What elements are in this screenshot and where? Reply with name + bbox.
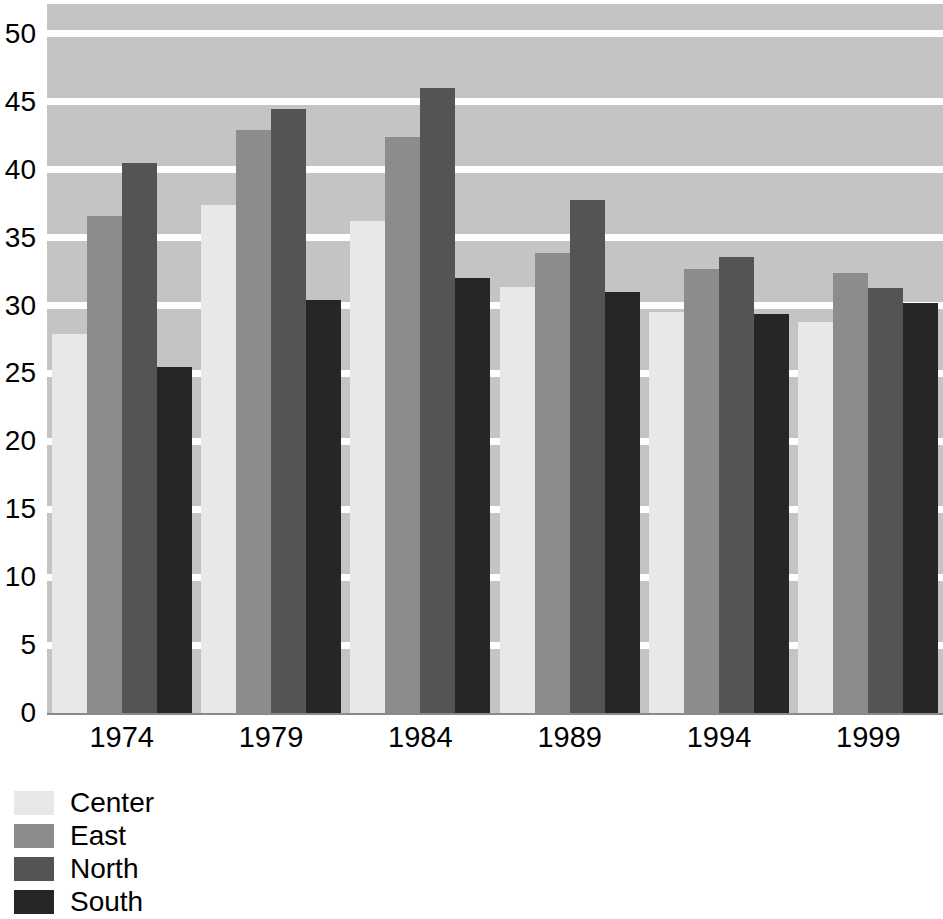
y-axis: 05101520253035404550 bbox=[0, 0, 44, 713]
legend-swatch-icon bbox=[14, 824, 54, 848]
x-tick-label: 1989 bbox=[537, 721, 602, 754]
legend-swatch-icon bbox=[14, 890, 54, 914]
bar bbox=[350, 221, 385, 713]
bar bbox=[684, 269, 719, 713]
bar bbox=[306, 300, 341, 713]
bar bbox=[87, 216, 122, 713]
y-tick-label: 15 bbox=[5, 495, 36, 523]
bar bbox=[833, 273, 868, 713]
legend-swatch-icon bbox=[14, 857, 54, 881]
x-axis: 197419791984198919941999 bbox=[47, 713, 943, 775]
legend-label: East bbox=[70, 822, 126, 850]
bar bbox=[719, 257, 754, 713]
y-tick-label: 40 bbox=[5, 156, 36, 184]
bars-layer bbox=[47, 0, 943, 713]
y-tick-label: 50 bbox=[5, 20, 36, 48]
x-tick-label: 1979 bbox=[239, 721, 304, 754]
y-tick-label: 25 bbox=[5, 359, 36, 387]
bar-group bbox=[196, 0, 345, 713]
x-tick-label: 1984 bbox=[388, 721, 453, 754]
y-tick-label: 35 bbox=[5, 224, 36, 252]
bar-group bbox=[495, 0, 644, 713]
bar bbox=[385, 137, 420, 713]
y-tick-label: 0 bbox=[20, 699, 36, 727]
legend-item[interactable]: East bbox=[14, 819, 414, 852]
legend-label: North bbox=[70, 855, 138, 883]
bar bbox=[201, 205, 236, 713]
y-tick-label: 30 bbox=[5, 292, 36, 320]
bar-group bbox=[794, 0, 943, 713]
bar bbox=[570, 200, 605, 713]
bar-chart-figure: 05101520253035404550 1974197919841989199… bbox=[0, 0, 943, 919]
legend-item[interactable]: Center bbox=[14, 786, 414, 819]
x-tick-label: 1994 bbox=[687, 721, 752, 754]
legend-label: Center bbox=[70, 789, 154, 817]
chart-legend: CenterEastNorthSouth bbox=[14, 786, 414, 918]
y-tick-label: 45 bbox=[5, 88, 36, 116]
bar bbox=[420, 88, 455, 713]
bar bbox=[271, 109, 306, 713]
bar bbox=[455, 278, 490, 713]
bar bbox=[754, 314, 789, 713]
legend-item[interactable]: South bbox=[14, 885, 414, 918]
y-tick-label: 20 bbox=[5, 427, 36, 455]
bar bbox=[605, 292, 640, 713]
bar-group bbox=[644, 0, 793, 713]
legend-item[interactable]: North bbox=[14, 852, 414, 885]
legend-swatch-icon bbox=[14, 791, 54, 815]
bar bbox=[500, 287, 535, 713]
bar bbox=[236, 130, 271, 713]
bar bbox=[535, 253, 570, 713]
plot-area bbox=[47, 0, 943, 713]
bar bbox=[868, 288, 903, 713]
bar-group bbox=[346, 0, 495, 713]
bar bbox=[157, 367, 192, 713]
y-tick-label: 5 bbox=[20, 631, 36, 659]
y-tick-label: 10 bbox=[5, 563, 36, 591]
bar bbox=[798, 322, 833, 713]
legend-label: South bbox=[70, 888, 143, 916]
x-tick-label: 1974 bbox=[89, 721, 154, 754]
bar bbox=[649, 312, 684, 713]
bar-group bbox=[47, 0, 196, 713]
x-tick-label: 1999 bbox=[836, 721, 901, 754]
bar bbox=[122, 163, 157, 713]
bar bbox=[52, 334, 87, 713]
bar bbox=[903, 303, 938, 713]
